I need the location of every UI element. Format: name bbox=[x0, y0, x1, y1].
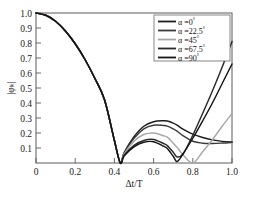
y-tick-labels: 1.0 0.9 0.8 0.7 0.6 0.5 0.4 0.3 0.2 0.1 bbox=[20, 9, 32, 154]
x-tick-marks bbox=[36, 158, 232, 163]
y-tick-marks bbox=[36, 13, 41, 148]
x-axis-title: Δt/T bbox=[125, 179, 142, 189]
x-tick-label: 1.0 bbox=[226, 167, 238, 177]
legend-label-3: α =67.5° bbox=[178, 44, 205, 54]
y-tick-label: 0.1 bbox=[20, 144, 32, 154]
y-tick-label: 0.5 bbox=[20, 84, 32, 94]
y-tick-label: 0.3 bbox=[20, 114, 32, 124]
y-tick-label: 0.7 bbox=[20, 54, 32, 64]
legend-label-0: α =0° bbox=[178, 17, 195, 27]
line-chart: 1.0 0.9 0.8 0.7 0.6 0.5 0.4 0.3 0.2 0.1 … bbox=[0, 0, 259, 199]
legend: α =0° α =22.5° α =45° α =67.5° bbox=[154, 15, 230, 63]
y-tick-label: 0.6 bbox=[20, 69, 32, 79]
y-tick-label: 0.4 bbox=[20, 99, 32, 109]
x-tick-label: 0.2 bbox=[69, 167, 81, 177]
x-tick-label: 0.6 bbox=[148, 167, 160, 177]
figure-container: 1.0 0.9 0.8 0.7 0.6 0.5 0.4 0.3 0.2 0.1 … bbox=[0, 0, 259, 199]
caption-fragment bbox=[0, 190, 259, 199]
legend-label-2: α =45° bbox=[178, 35, 199, 45]
y-tick-label: 0.8 bbox=[20, 39, 32, 49]
x-tick-label: 0.8 bbox=[187, 167, 199, 177]
x-tick-labels: 0 0.2 0.4 0.6 0.8 1.0 bbox=[34, 167, 239, 177]
x-tick-label: 0.4 bbox=[108, 167, 120, 177]
legend-label-4: α =90° bbox=[178, 53, 199, 63]
legend-label-1: α =22.5° bbox=[178, 26, 205, 36]
y-tick-label: 0.2 bbox=[20, 129, 32, 139]
y-axis-title: |φₖ| bbox=[6, 81, 16, 94]
y-tick-label: 0.9 bbox=[20, 24, 32, 34]
y-tick-label: 1.0 bbox=[20, 9, 32, 19]
x-tick-label: 0 bbox=[34, 167, 39, 177]
